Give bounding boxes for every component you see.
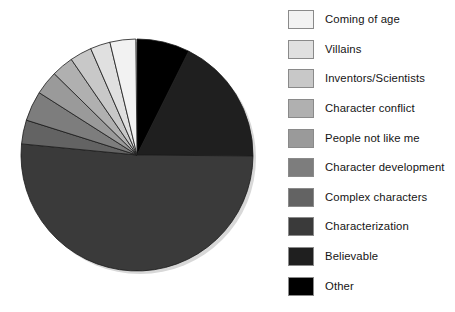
legend-item-label: Other <box>325 280 354 293</box>
legend-item-label: Character conflict <box>325 102 415 115</box>
legend-item[interactable]: Inventors/Scientists <box>288 64 455 94</box>
legend-item-label: Coming of age <box>325 13 400 26</box>
legend-item[interactable]: Coming of age <box>288 5 455 35</box>
legend-item-label: Inventors/Scientists <box>325 72 425 85</box>
legend-swatch <box>288 188 314 207</box>
legend-item-label: Complex characters <box>325 191 427 204</box>
legend-swatch <box>288 247 314 266</box>
legend-item-label: People not like me <box>325 132 420 145</box>
legend-item[interactable]: Believable <box>288 242 455 272</box>
legend-item[interactable]: Character development <box>288 153 455 183</box>
legend-swatch <box>288 10 314 29</box>
legend-item[interactable]: Characterization <box>288 212 455 242</box>
legend-swatch <box>288 158 314 177</box>
legend-item[interactable]: Character conflict <box>288 94 455 124</box>
legend-swatch <box>288 217 314 236</box>
pie-chart-figure: Coming of ageVillainsInventors/Scientist… <box>0 0 455 312</box>
legend-item[interactable]: Villains <box>288 35 455 65</box>
legend-item-label: Believable <box>325 250 378 263</box>
legend-item-label: Villains <box>325 43 361 56</box>
legend-swatch <box>288 69 314 88</box>
legend-swatch <box>288 40 314 59</box>
legend-item[interactable]: People not like me <box>288 123 455 153</box>
pie-slice-group <box>21 39 253 271</box>
legend-item[interactable]: Other <box>288 271 455 301</box>
chart-legend: Coming of ageVillainsInventors/Scientist… <box>288 5 455 301</box>
pie-slice[interactable] <box>21 144 253 271</box>
pie-plot-area <box>0 0 272 312</box>
legend-swatch <box>288 99 314 118</box>
legend-item-label: Character development <box>325 161 445 174</box>
legend-swatch <box>288 129 314 148</box>
legend-item[interactable]: Complex characters <box>288 183 455 213</box>
pie-svg <box>0 0 272 312</box>
legend-swatch <box>288 277 314 296</box>
legend-item-label: Characterization <box>325 220 409 233</box>
